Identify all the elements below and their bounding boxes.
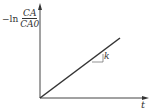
y-label-fraction: CA CA0 bbox=[20, 8, 39, 29]
slope-label: k bbox=[104, 51, 109, 61]
y-label-prefix: −ln bbox=[2, 14, 18, 24]
x-axis-label: t bbox=[141, 99, 145, 110]
data-line bbox=[40, 38, 120, 98]
y-label-denominator: CA0 bbox=[20, 19, 39, 29]
y-label-numerator: CA bbox=[22, 8, 37, 19]
y-axis-label: −ln CA CA0 bbox=[2, 8, 39, 29]
